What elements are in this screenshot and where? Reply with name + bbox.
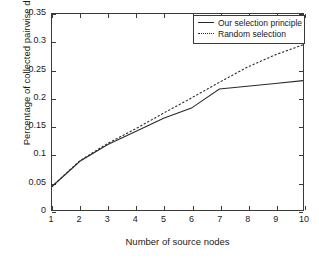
legend-dotted-line-icon	[197, 30, 215, 38]
y-tick-label: 0.25	[2, 65, 46, 74]
x-tick-label: 4	[125, 215, 145, 224]
legend-item-our-selection-principle[interactable]: Our selection principle	[197, 18, 301, 28]
y-tick-mark-right	[299, 212, 303, 213]
x-tick-label: 8	[238, 215, 258, 224]
x-tick-label: 6	[182, 215, 202, 224]
x-tick-label: 3	[97, 215, 117, 224]
x-tick-label: 5	[153, 215, 173, 224]
x-tick-label: 7	[210, 215, 230, 224]
x-tick-label: 2	[69, 215, 89, 224]
y-tick-label: 0.05	[2, 178, 46, 187]
series-line-random-selection	[52, 45, 303, 187]
x-tick-label: 10	[294, 215, 314, 224]
x-tick-label: 9	[266, 215, 286, 224]
y-tick-label: 0.1	[2, 149, 46, 158]
legend-label: Our selection principle	[218, 19, 302, 28]
x-axis-title: Number of source nodes	[51, 236, 304, 247]
y-tick-mark	[52, 212, 56, 213]
y-tick-label: 0.2	[2, 93, 46, 102]
y-tick-label: 0.35	[2, 8, 46, 17]
y-tick-label: 0.15	[2, 121, 46, 130]
y-tick-label: 0	[2, 206, 46, 215]
y-tick-label: 0.3	[2, 36, 46, 45]
legend-solid-line-icon	[197, 19, 215, 27]
chart-page: Percentage of collected pairwise distanc…	[0, 0, 319, 259]
legend-item-random-selection[interactable]: Random selection	[197, 29, 301, 39]
series-line-our-selection-principle	[52, 81, 303, 187]
legend[interactable]: Our selection principle Random selection	[193, 15, 305, 44]
x-tick-label: 1	[41, 215, 61, 224]
x-tick-mark-top	[305, 14, 306, 18]
legend-label: Random selection	[218, 30, 286, 39]
plot-area: Our selection principle Random selection	[51, 13, 304, 211]
x-tick-mark	[305, 206, 306, 210]
